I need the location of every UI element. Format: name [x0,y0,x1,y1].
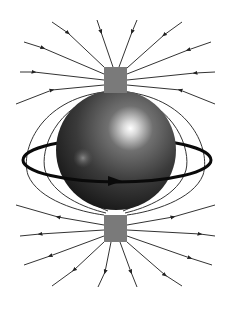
sphere-reflection [73,148,93,168]
top-magnet-block [104,67,127,93]
sphere [56,90,176,210]
magnetic-field-diagram [0,0,231,310]
diagram-canvas [0,0,231,310]
bottom-magnet-block [104,215,127,242]
